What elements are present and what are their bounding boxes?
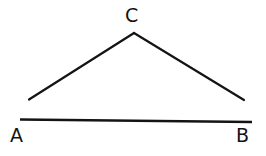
left-side-segment-ac-line — [29, 33, 134, 100]
vertex-label-c: C — [125, 6, 138, 25]
base-segment-ab-line — [20, 120, 252, 123]
vertex-label-a: A — [10, 126, 23, 145]
vertex-label-b: B — [236, 126, 249, 145]
geometry-figure: C A B — [0, 0, 266, 156]
right-side-segment-cb-line — [134, 33, 244, 100]
